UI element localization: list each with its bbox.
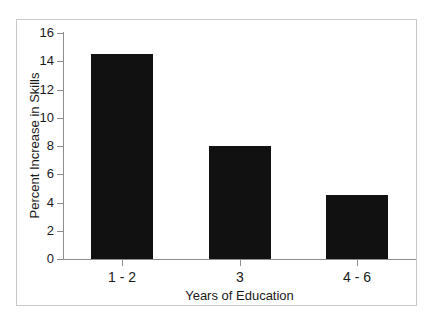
y-axis-tick (57, 90, 63, 91)
y-axis-tick (57, 61, 63, 62)
bar-chart-figure: 0246810121416 1 - 234 - 6 Years of Educa… (0, 0, 433, 321)
x-axis-title: Years of Education (63, 289, 416, 302)
y-axis-tick (57, 118, 63, 119)
bar (91, 54, 153, 259)
y-axis-tick-label: 0 (8, 252, 54, 265)
x-axis-tick (357, 259, 358, 266)
x-axis-tick-label: 3 (195, 270, 285, 284)
x-axis-tick-label: 1 - 2 (77, 270, 167, 284)
y-axis-tick (57, 174, 63, 175)
x-axis-tick-label: 4 - 6 (312, 270, 402, 284)
y-axis-tick (57, 231, 63, 232)
bar (326, 195, 388, 259)
bar (209, 146, 271, 259)
y-axis-tick (57, 259, 63, 260)
y-axis-tick (57, 33, 63, 34)
x-axis-tick (122, 259, 123, 266)
y-axis-tick (57, 146, 63, 147)
y-axis-title: Percent Increase in Skills (28, 46, 41, 246)
y-axis-tick-label: 16 (8, 26, 54, 39)
y-axis-tick (57, 203, 63, 204)
y-axis-line (63, 32, 64, 260)
x-axis-tick (240, 259, 241, 266)
